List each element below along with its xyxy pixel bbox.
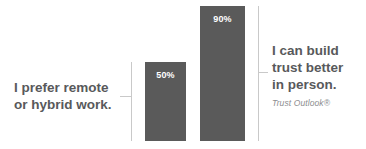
callout-remote-line-1: I prefer remote [14, 79, 118, 96]
callout-remote-work: I prefer remote or hybrid work. [14, 79, 118, 113]
leader-line-left-vertical [131, 62, 132, 141]
bar-chart-infographic: I prefer remote or hybrid work. 50% 90% … [0, 0, 366, 149]
callout-trust-line-3: in person. [272, 76, 364, 93]
source-attribution: Trust Outlook® [272, 95, 364, 112]
callout-remote-line-2: or hybrid work. [14, 96, 118, 113]
bar-remote-work: 50% [145, 62, 186, 141]
leader-line-right-vertical [258, 6, 259, 141]
callout-trust-in-person: I can build trust better in person. Trus… [272, 42, 364, 112]
bar-value-trust-in-person: 90% [200, 14, 245, 24]
callout-trust-line-1: I can build [272, 42, 364, 59]
leader-line-left-tick [120, 96, 131, 97]
callout-trust-line-2: trust better [272, 59, 364, 76]
bar-value-remote-work: 50% [145, 70, 186, 80]
leader-line-right-tick [258, 72, 268, 73]
bar-trust-in-person: 90% [200, 6, 245, 141]
